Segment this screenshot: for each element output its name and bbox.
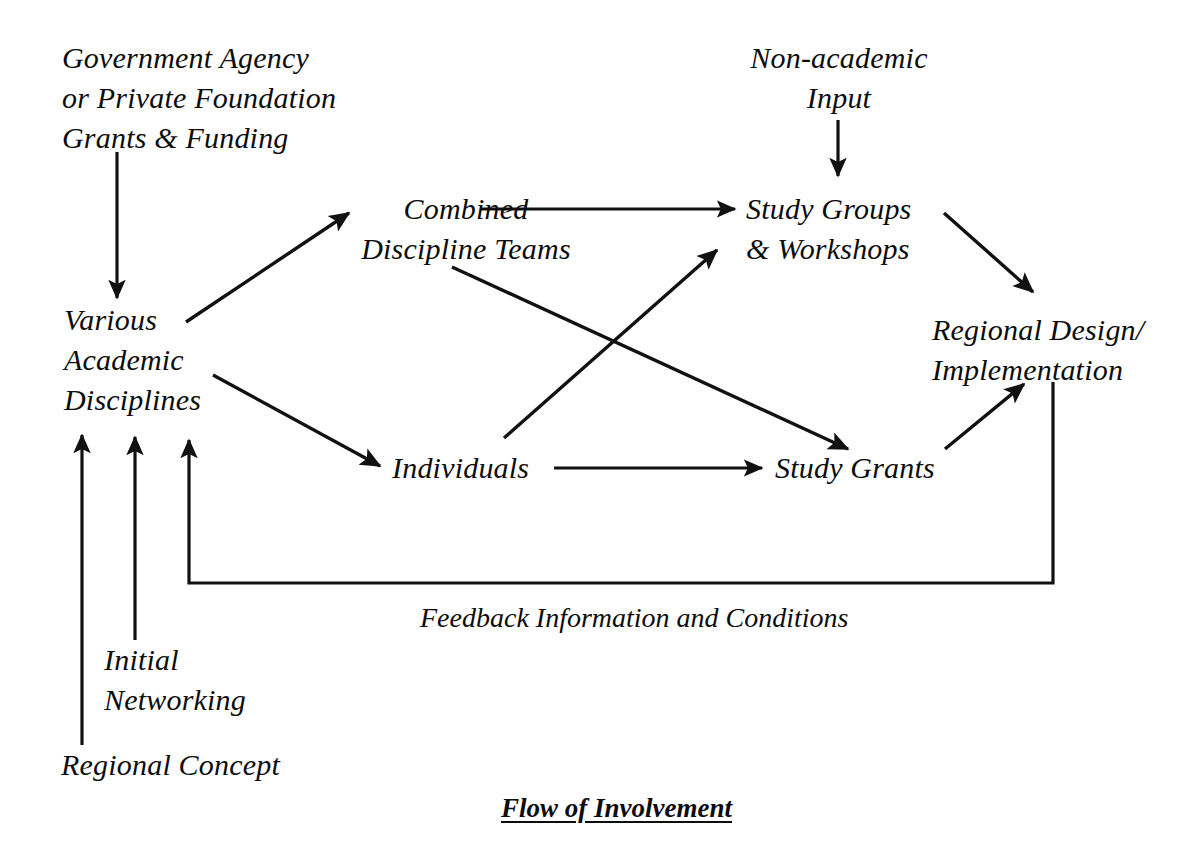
node-study-grants: Study Grants: [775, 448, 935, 488]
node-regional-concept: Regional Concept: [61, 745, 280, 785]
edge-studygroups-to-regionaldesign: [944, 213, 1033, 292]
node-government-agency: Government Agency or Private Foundation …: [62, 38, 336, 158]
node-combined-discipline-teams: Combined Discipline Teams: [350, 189, 582, 269]
node-regional-design-implementation: Regional Design/ Implementation: [932, 310, 1144, 390]
node-initial-networking: Initial Networking: [104, 640, 246, 720]
diagram-canvas: Government Agency or Private Foundation …: [0, 0, 1186, 853]
edge-various-to-individuals: [213, 375, 380, 466]
label-feedback-information: Feedback Information and Conditions: [420, 600, 849, 636]
node-various-academic-disciplines: Various Academic Disciplines: [64, 300, 201, 420]
node-individuals: Individuals: [392, 448, 529, 488]
edge-studygrants-to-regionaldesign: [945, 384, 1024, 449]
edge-combined-to-studygrants: [452, 267, 848, 449]
node-study-groups-workshops: Study Groups & Workshops: [746, 189, 911, 269]
figure-title: Flow of Involvement: [501, 793, 732, 824]
node-nonacademic-input: Non-academic Input: [703, 38, 975, 118]
edge-individuals-to-studygroups: [504, 250, 717, 438]
edge-various-to-combined: [186, 213, 349, 322]
